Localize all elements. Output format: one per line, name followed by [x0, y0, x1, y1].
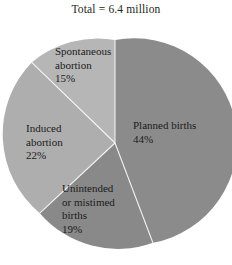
slice-value-spontaneous-abortion: 15% [55, 72, 111, 86]
slice-label-induced-abortion: Induced abortion 22% [26, 122, 63, 163]
pie-chart-figure: Total = 6.4 million Spontaneous abortion… [0, 0, 232, 265]
slice-label-spontaneous-abortion-line2: abortion [55, 59, 92, 71]
slice-label-unintended-births-line2: or mistimed [62, 196, 115, 208]
slice-label-unintended-or-mistimed-births: Unintended or mistimed births 19% [62, 182, 115, 236]
slice-value-planned-births: 44% [133, 133, 196, 147]
slice-label-planned-births: Planned births 44% [133, 119, 196, 146]
slice-label-unintended-births-line1: Unintended [62, 182, 113, 194]
slice-label-planned-births-line1: Planned births [133, 119, 196, 131]
slice-label-induced-abortion-line1: Induced [26, 122, 61, 134]
slice-label-spontaneous-abortion: Spontaneous abortion 15% [55, 45, 111, 86]
slice-value-induced-abortion: 22% [26, 149, 63, 163]
slice-label-spontaneous-abortion-line1: Spontaneous [55, 45, 111, 57]
slice-label-induced-abortion-line2: abortion [26, 136, 63, 148]
pie-plot-area: Spontaneous abortion 15% Induced abortio… [0, 0, 232, 265]
slice-label-unintended-births-line3: births [62, 209, 87, 221]
slice-value-unintended-births: 19% [62, 223, 115, 237]
